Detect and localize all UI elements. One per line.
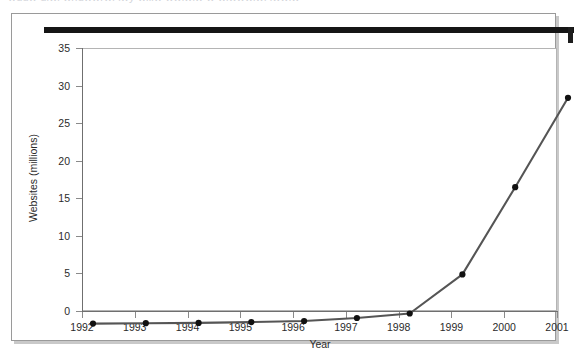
data-point-1992 — [90, 321, 96, 327]
data-point-2001 — [565, 95, 571, 101]
data-point-1994 — [196, 320, 202, 326]
scan-clipped-text-strip: wuuw uiwi wnuwwrwi iwy wiiiw wwiwiw w wi… — [0, 0, 576, 6]
scan-clipped-text: wuuw uiwi wnuwwrwi iwy wiiiw wwiwiw w wi… — [8, 0, 300, 3]
data-point-1999 — [459, 271, 465, 277]
data-point-2000 — [512, 184, 518, 190]
figure-card: 05101520253035 1992199319941995199619971… — [11, 13, 556, 341]
data-point-1995 — [248, 319, 254, 325]
series-line — [93, 98, 568, 324]
data-point-1993 — [143, 320, 149, 326]
data-point-1998 — [407, 310, 413, 316]
data-point-1997 — [354, 315, 360, 321]
data-point-1996 — [301, 318, 307, 324]
line-series-websites — [12, 14, 576, 352]
series-markers — [90, 95, 571, 327]
